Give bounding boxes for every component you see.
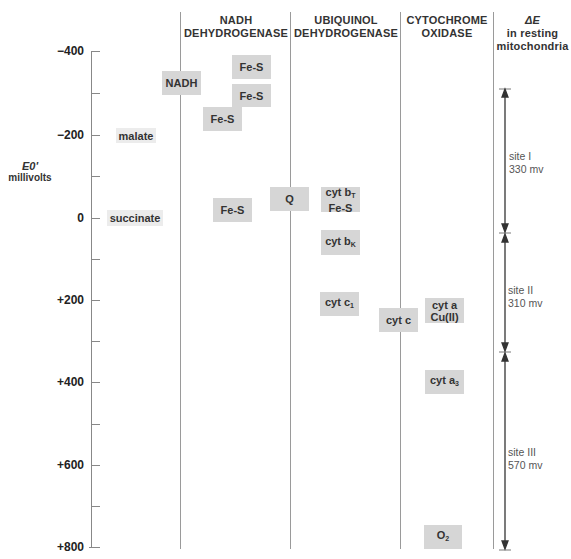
tick [91, 465, 100, 466]
carrier-cyt-a-cu: cyt a Cu(II) [425, 298, 464, 323]
carrier-fe-s-3: Fe-S [203, 107, 242, 131]
header-delta-e: ΔE in resting mitochondria [494, 14, 571, 53]
tick [91, 218, 100, 219]
divider-2 [290, 12, 291, 549]
tick-label: −400 [34, 44, 84, 58]
carrier-cyt-c1: cyt c1 [320, 292, 359, 316]
tick [91, 506, 100, 507]
header-ubiquinol-dehydrogenase: UBIQUINOL DEHYDROGENASE [291, 14, 401, 40]
carrier-fe-s-2: Fe-S [232, 84, 271, 107]
divider-4 [493, 12, 494, 549]
substrate-succinate: succinate [107, 210, 163, 226]
tick-label: +400 [34, 375, 84, 389]
tick [91, 93, 100, 94]
site-1-label: site I 330 mv [509, 150, 543, 176]
carrier-o2: O2 [424, 525, 462, 549]
carrier-cyt-bt-fe-s: cyt bT Fe-S [321, 187, 360, 212]
header-nadh-dehydrogenase: NADH DEHYDROGENASE [182, 14, 290, 40]
tick-label: +800 [34, 540, 84, 554]
carrier-cyt-bk: cyt bK [321, 230, 360, 255]
tick [91, 51, 100, 52]
carrier-fe-s-4: Fe-S [213, 198, 252, 222]
carrier-q: Q [270, 187, 309, 211]
tick [89, 547, 100, 548]
redox-diagram: NADH DEHYDROGENASE UBIQUINOL DEHYDROGENA… [0, 0, 571, 559]
site-2-label: site II 310 mv [508, 284, 542, 310]
divider-3 [400, 12, 401, 549]
tick [91, 424, 100, 425]
carrier-cyt-a3: cyt a3 [425, 370, 464, 394]
delta-e-arrows [0, 0, 571, 559]
tick-label: +600 [34, 458, 84, 472]
substrate-malate: malate [116, 128, 156, 143]
tick [91, 135, 100, 136]
tick [91, 300, 100, 301]
tick [91, 382, 100, 383]
tick [91, 341, 100, 342]
tick-label: +200 [34, 293, 84, 307]
carrier-nadh: NADH [162, 71, 201, 95]
y-axis-label: E0' millivolts [0, 160, 60, 184]
tick [91, 259, 100, 260]
tick [91, 176, 100, 177]
tick-label: 0 [34, 211, 84, 225]
carrier-cyt-c: cyt c [379, 308, 418, 332]
site-3-label: site III 570 mv [508, 446, 542, 472]
header-cytochrome-oxidase: CYTOCHROME OXIDASE [401, 14, 493, 40]
carrier-fe-s-1: Fe-S [232, 55, 271, 79]
tick-label: −200 [34, 128, 84, 142]
